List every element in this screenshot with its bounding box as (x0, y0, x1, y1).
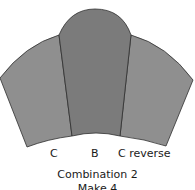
label-b: B (91, 147, 99, 160)
label-c-reverse: C reverse (118, 147, 171, 160)
label-c: C (50, 147, 58, 160)
caption-combination: Combination 2 (0, 168, 195, 181)
caption-quantity: Make 4 (0, 182, 195, 190)
piece-b (59, 9, 131, 136)
piece-c-reverse (120, 35, 193, 146)
pattern-diagram (0, 0, 195, 190)
